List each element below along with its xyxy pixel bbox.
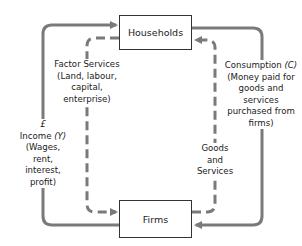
goods-services-label: Goods and Services [193, 143, 237, 178]
goods-services-arrow [192, 40, 215, 212]
factor-services-label: Factor Services (Land, labour, capital, … [50, 59, 124, 105]
firms-label: Firms [143, 214, 168, 225]
households-box: Households [119, 15, 192, 50]
firms-box: Firms [119, 200, 192, 238]
income-label: £ Income (Y) (Wages, rent, interest, pro… [12, 119, 74, 188]
households-label: Households [128, 27, 183, 38]
consumption-label: Consumption (C) (Money paid for goods an… [220, 60, 302, 129]
